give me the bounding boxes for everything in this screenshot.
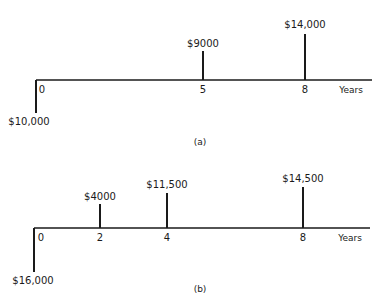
year-tick-label: 8	[302, 84, 308, 95]
diagram-caption: (a)	[194, 137, 207, 147]
year-tick-label: 5	[200, 84, 206, 95]
cash-flow-amount-label: $11,500	[146, 179, 187, 190]
year-tick-label: 0	[38, 232, 44, 243]
cash-flow-amount-label: $14,500	[282, 173, 323, 184]
cash-flow-diagram-b: $16,000$4000$11,500$14,5000248Years(b)	[12, 173, 370, 294]
year-tick-label: 4	[164, 232, 170, 243]
year-tick-label: 2	[97, 232, 103, 243]
cash-flow-amount-label: $9000	[187, 38, 219, 49]
axis-label-years: Years	[338, 85, 363, 95]
cash-flow-amount-label: $14,000	[284, 19, 325, 30]
year-tick-label: 0	[39, 84, 45, 95]
cash-flow-amount-label: $4000	[84, 191, 116, 202]
cash-flow-amount-label: $10,000	[8, 116, 49, 127]
diagram-canvas: $10,000$9000$14,000058Years(a)$16,000$40…	[0, 0, 383, 302]
diagram-caption: (b)	[194, 284, 207, 294]
axis-label-years: Years	[337, 233, 362, 243]
cash-flow-diagrams: $10,000$9000$14,000058Years(a)$16,000$40…	[0, 0, 383, 302]
year-tick-label: 8	[300, 232, 306, 243]
cash-flow-diagram-a: $10,000$9000$14,000058Years(a)	[8, 19, 372, 147]
cash-flow-amount-label: $16,000	[12, 275, 53, 286]
